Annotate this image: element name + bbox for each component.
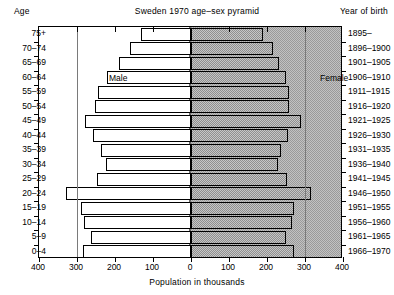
x-axis-tick-label: 0 — [188, 262, 193, 272]
x-axis-top-tick — [229, 27, 230, 32]
year-of-birth-label: 1901–1905 — [348, 57, 391, 67]
female-bar — [191, 57, 279, 70]
female-bar — [191, 216, 292, 229]
x-axis-top-tick — [115, 27, 116, 32]
age-group-label: 0–4 — [32, 246, 52, 256]
pyramid-row — [39, 216, 341, 231]
female-series-label: Female — [320, 73, 348, 83]
year-axis-tick — [341, 201, 346, 202]
age-group-label: 40–44 — [22, 130, 52, 140]
year-of-birth-label: 1911–1915 — [348, 86, 390, 96]
year-of-birth-header: Year of birth — [340, 6, 388, 16]
year-of-birth-label: 1936–1940 — [348, 159, 391, 169]
female-bar — [191, 202, 294, 215]
year-of-birth-label: 1895– — [348, 28, 372, 38]
male-bar — [130, 42, 191, 55]
male-bar — [95, 100, 191, 113]
male-bar — [119, 57, 191, 70]
age-group-label: 10–14 — [22, 217, 52, 227]
year-axis-tick — [341, 56, 346, 57]
year-axis-tick — [341, 187, 346, 188]
male-bar — [93, 129, 191, 142]
pyramid-row — [39, 172, 341, 187]
age-group-label: 55–59 — [22, 86, 52, 96]
year-axis-tick — [341, 216, 346, 217]
pyramid-row — [39, 158, 341, 173]
chart-title: Sweden 1970 age–sex pyramid — [135, 6, 259, 16]
male-series-label: Male — [109, 73, 127, 83]
female-bar — [191, 231, 286, 244]
male-bar — [81, 202, 191, 215]
year-axis-tick — [341, 42, 346, 43]
year-of-birth-label: 1896–1900 — [348, 43, 391, 53]
year-axis-tick — [341, 71, 346, 72]
female-bar — [191, 28, 263, 41]
year-of-birth-label: 1946–1950 — [348, 188, 391, 198]
year-of-birth-label: 1941–1945 — [348, 173, 391, 183]
year-of-birth-label: 1921–1925 — [348, 115, 391, 125]
year-of-birth-label: 1966–1970 — [348, 246, 391, 256]
age-group-label: 15–19 — [22, 202, 52, 212]
year-axis-tick — [341, 114, 346, 115]
pyramid-row — [39, 143, 341, 158]
female-bar — [191, 115, 301, 128]
reference-line — [305, 27, 306, 257]
age-group-label: 50–54 — [22, 101, 52, 111]
year-axis-tick — [341, 129, 346, 130]
female-bar — [191, 129, 288, 142]
age-axis-header: Age — [14, 6, 30, 16]
year-axis-tick — [341, 245, 346, 246]
x-axis-tick-label: 100 — [221, 262, 235, 272]
male-bar — [106, 158, 192, 171]
year-of-birth-label: 1926–1930 — [348, 130, 391, 140]
age-group-label: 25–29 — [22, 173, 52, 183]
male-bar — [141, 28, 191, 41]
age-group-label: 5–9 — [32, 231, 52, 241]
x-axis-tick-label: 200 — [107, 262, 121, 272]
year-axis-tick — [341, 158, 346, 159]
female-bar — [191, 100, 289, 113]
plot-area: Male Female — [38, 26, 342, 258]
male-bar — [91, 231, 191, 244]
age-group-label: 45–49 — [22, 115, 52, 125]
age-group-label: 20–24 — [22, 188, 52, 198]
year-of-birth-label: 1961–1965 — [348, 231, 391, 241]
x-axis-tick-label: 300 — [69, 262, 83, 272]
female-bar — [191, 144, 281, 157]
pyramid-row — [39, 201, 341, 216]
female-bar — [191, 187, 311, 200]
year-axis-tick — [341, 143, 346, 144]
male-bar — [84, 216, 191, 229]
x-axis-tick-label: 200 — [259, 262, 273, 272]
male-bar — [98, 86, 191, 99]
reference-line — [77, 27, 78, 257]
x-axis-top-tick — [153, 27, 154, 32]
pyramid-row — [39, 71, 341, 86]
age-group-label: 60–64 — [22, 72, 52, 82]
pyramid-row — [39, 100, 341, 115]
year-axis-tick — [341, 230, 346, 231]
year-axis-tick — [341, 172, 346, 173]
year-axis-tick — [341, 85, 346, 86]
age-group-label: 30–34 — [22, 159, 52, 169]
year-of-birth-label: 1956–1960 — [348, 217, 391, 227]
x-axis-tick-label: 100 — [145, 262, 159, 272]
age-group-label: 65–69 — [22, 57, 52, 67]
year-of-birth-label: 1916–1920 — [348, 101, 391, 111]
pyramid-row — [39, 27, 341, 42]
pyramid-row — [39, 85, 341, 100]
year-axis-tick — [341, 100, 346, 101]
year-of-birth-label: 1951–1955 — [348, 202, 391, 212]
pyramid-row — [39, 42, 341, 57]
female-bar — [191, 158, 278, 171]
pyramid-row — [39, 114, 341, 129]
female-bar — [191, 173, 287, 186]
year-of-birth-label: 1931–1935 — [348, 144, 391, 154]
x-axis-top-tick — [267, 27, 268, 32]
age-group-label: 75+ — [32, 28, 52, 38]
male-bar — [85, 115, 191, 128]
female-bar — [191, 42, 273, 55]
age-group-label: 35–39 — [22, 144, 52, 154]
pyramid-row — [39, 129, 341, 144]
male-bar — [97, 173, 191, 186]
